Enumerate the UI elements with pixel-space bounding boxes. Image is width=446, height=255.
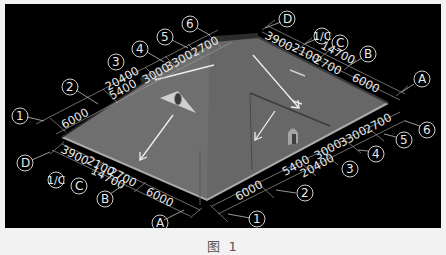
dim-text: 6000 [144, 184, 176, 210]
grid-label: B [364, 47, 372, 61]
grid-label: A [156, 216, 165, 228]
grid-label: 5 [161, 30, 169, 44]
grid-label: 2 [301, 186, 309, 200]
figure-caption: 图 1 [0, 236, 446, 255]
grid-label: 1/C [313, 30, 332, 43]
grid-label: 2 [66, 80, 74, 94]
grid-label: 1/C [47, 174, 66, 187]
grid-label: 1 [16, 109, 24, 123]
dormer-window [175, 93, 182, 105]
grid-label: A [418, 72, 427, 86]
grid-label: 3 [112, 55, 120, 69]
grid-label: B [101, 192, 109, 206]
grid-label: 4 [136, 42, 144, 56]
grid-label: D [283, 12, 292, 26]
grid-label: D [21, 156, 30, 170]
grid-label: C [75, 179, 83, 193]
grid-label: C [336, 36, 344, 50]
grid-label: 5 [400, 133, 408, 147]
grid-label: 1 [253, 212, 261, 226]
grid-label: 4 [372, 147, 380, 161]
3d-viewport[interactable]: 6000 5400 3000 3300 2700 20400 1 2 3 4 5 [5, 4, 441, 228]
grid-label: 3 [346, 162, 354, 176]
dormer-window-pane [292, 134, 296, 144]
grid-label: 6 [186, 17, 194, 31]
dormer-right[interactable] [288, 129, 298, 146]
grid-label: 6 [423, 123, 431, 137]
